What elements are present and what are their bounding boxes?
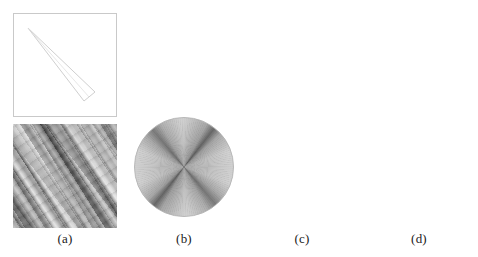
panel-a-top-wedge-image	[13, 13, 117, 117]
disk-x-cross	[134, 117, 234, 217]
wedge-outline-svg	[14, 14, 116, 116]
wedge-axis-line	[28, 28, 89, 97]
caption-b: (b)	[129, 232, 239, 245]
texture-layer-cross	[13, 124, 117, 228]
figure-container: (a) (b) (c) (d)	[0, 0, 478, 257]
caption-a: (a)	[10, 232, 120, 245]
wedge-outline-icon	[14, 14, 116, 116]
panel-b-top-disk	[134, 117, 234, 217]
caption-d: (d)	[364, 232, 474, 245]
panel-a-bottom-texture-image	[13, 124, 117, 228]
caption-c: (c)	[247, 232, 357, 245]
